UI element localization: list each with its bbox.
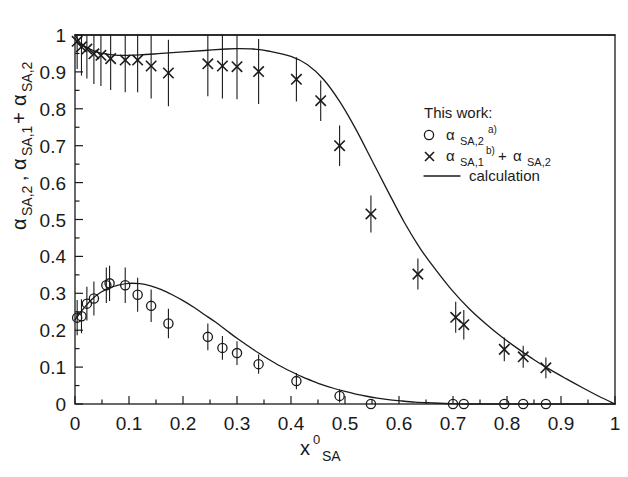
y-tick-label: 0.7 xyxy=(40,136,66,157)
y-axis-title-sub1: SA,2 xyxy=(19,185,35,216)
curve-calculation-lower xyxy=(75,283,615,404)
legend-entry-1-base: α xyxy=(446,126,455,143)
y-axis-title-alpha1: α xyxy=(8,218,30,230)
y-tick-label: 0.6 xyxy=(40,173,66,194)
y-tick-label: 0.1 xyxy=(40,357,66,378)
x-tick-label: 0.4 xyxy=(278,413,305,434)
y-axis-title-sub2: SA,1 xyxy=(19,125,35,156)
plot-frame xyxy=(75,35,615,404)
x-tick-label: 0.6 xyxy=(386,413,412,434)
y-tick-label: 0.4 xyxy=(40,246,67,267)
legend-entry-2-superscript: b) xyxy=(486,145,495,156)
legend-entry-2-base: α xyxy=(446,147,455,164)
x-tick-label: 0 xyxy=(70,413,81,434)
calculation-curves xyxy=(75,35,615,404)
y-tick-label: 1 xyxy=(55,25,66,46)
legend-entry-1-subscript: SA,2 xyxy=(460,135,484,147)
error-bars xyxy=(77,35,546,403)
x-axis-tick-labels: 00.10.20.30.40.50.60.70.80.91 xyxy=(70,413,621,434)
x-axis-title-subscript: SA xyxy=(322,448,341,464)
legend: This work: α SA,2 a) α SA,1 b) + α SA,2 … xyxy=(424,104,551,184)
x-tick-label: 0.7 xyxy=(440,413,466,434)
figure-container: 00.10.20.30.40.50.60.70.80.91 00.10.20.3… xyxy=(0,0,628,477)
x-tick-label: 0.5 xyxy=(332,413,358,434)
x-axis-title-base: x xyxy=(300,437,310,459)
y-tick-label: 0.2 xyxy=(40,320,66,341)
x-tick-label: 0.8 xyxy=(494,413,520,434)
y-axis-title-plus: + xyxy=(8,112,30,124)
x-tick-label: 0.2 xyxy=(170,413,196,434)
legend-entry-1-superscript: a) xyxy=(488,124,497,135)
legend-entry-2-tail-base: α xyxy=(513,147,522,164)
legend-entry-3-label: calculation xyxy=(469,167,540,184)
y-tick-label: 0 xyxy=(55,394,66,415)
legend-title: This work: xyxy=(424,104,492,121)
y-axis-title: α SA,2 , α SA,1 + α SA,2 xyxy=(8,61,35,230)
legend-entry-2-plus: + xyxy=(498,147,507,164)
legend-cross-icon xyxy=(425,152,434,161)
y-axis-title-comma: , xyxy=(8,175,30,181)
y-axis-ticks xyxy=(75,35,83,404)
data-markers xyxy=(72,36,551,409)
x-tick-label: 0.3 xyxy=(224,413,250,434)
y-tick-label: 0.3 xyxy=(40,283,66,304)
y-tick-label: 0.9 xyxy=(40,62,66,83)
y-tick-label: 0.8 xyxy=(40,99,66,120)
curve-calculation-upper xyxy=(75,35,615,404)
legend-circle-icon xyxy=(424,130,433,139)
x-tick-label: 0.1 xyxy=(116,413,142,434)
x-axis-title: x 0 SA xyxy=(300,432,341,464)
x-axis-ticks xyxy=(75,396,615,404)
x-tick-label: 1 xyxy=(610,413,621,434)
y-axis-tick-labels: 00.10.20.30.40.50.60.70.80.91 xyxy=(40,25,67,415)
y-axis-title-alpha2: α xyxy=(8,158,30,170)
x-tick-label: 0.9 xyxy=(548,413,574,434)
y-tick-label: 0.5 xyxy=(40,210,66,231)
y-axis-title-sub3: SA,2 xyxy=(19,61,35,92)
chart-svg: 00.10.20.30.40.50.60.70.80.91 00.10.20.3… xyxy=(0,0,628,477)
y-axis-title-alpha3: α xyxy=(8,94,30,106)
x-axis-title-superscript: 0 xyxy=(313,432,320,447)
